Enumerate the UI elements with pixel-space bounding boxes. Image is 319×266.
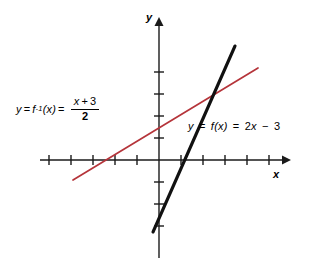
inverse-numerator-plus: + <box>79 95 90 107</box>
inverse-label-fraction: x+3 2 <box>71 96 100 122</box>
direct-label-arg: (x) <box>214 120 227 132</box>
function-inverse-graph-figure: y x y = f-1(x) = x+3 2 y = f(x) = 2x − 3 <box>0 0 319 266</box>
inverse-label-arg: (x) <box>43 103 56 115</box>
x-axis-label: x <box>273 168 279 180</box>
inverse-label-numerator: x+3 <box>71 96 100 109</box>
direct-label-intercept: 3 <box>274 120 280 132</box>
direct-function-label: y = f(x) = 2x − 3 <box>188 120 280 132</box>
inverse-function-label: y = f-1(x) = x+3 2 <box>16 96 99 122</box>
direct-label-minus: − <box>260 120 271 132</box>
direct-label-y: y <box>188 120 194 132</box>
y-axis-arrow-icon <box>155 17 164 26</box>
inverse-label-equals-2: = <box>56 103 67 115</box>
x-axis-arrow-icon <box>282 156 291 165</box>
inverse-label-denominator: 2 <box>79 110 91 123</box>
inverse-label-equals-1: = <box>22 103 33 115</box>
coordinate-plane <box>0 0 319 266</box>
direct-label-equals-1: = <box>197 120 208 132</box>
direct-label-variable: x <box>251 120 257 132</box>
direct-function-line <box>153 46 235 232</box>
x-axis <box>40 156 291 165</box>
inverse-numerator-const: 3 <box>90 95 96 107</box>
direct-label-equals-2: = <box>231 120 242 132</box>
y-axis-label: y <box>146 11 152 23</box>
